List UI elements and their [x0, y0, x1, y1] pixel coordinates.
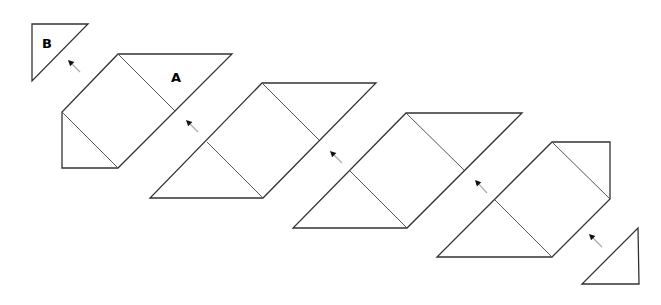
fold-line	[262, 83, 319, 140]
label-b: B	[42, 36, 52, 51]
arrow-icon	[186, 120, 198, 132]
triangle-piece-b	[32, 24, 88, 81]
arrow-icon	[330, 151, 342, 163]
arrow-group	[68, 60, 602, 247]
fold-line	[207, 142, 263, 198]
label-a: A	[171, 70, 181, 85]
fold-line	[62, 112, 118, 168]
arrow-icon	[68, 60, 80, 72]
fold-line	[350, 171, 407, 228]
arrow-icon	[589, 234, 602, 247]
shape-step-3	[293, 113, 522, 228]
shape-sequence	[62, 54, 610, 257]
triangle-b-outline	[32, 24, 88, 81]
shape-outline	[437, 142, 610, 257]
shape-step-1	[62, 54, 232, 168]
arrow-icon	[475, 180, 487, 193]
shape-outline	[150, 83, 376, 198]
fold-line	[118, 54, 175, 111]
diagram-canvas: BA	[0, 0, 661, 305]
shape-step-2	[150, 83, 376, 198]
shape-step-4	[437, 142, 610, 257]
fold-line	[495, 200, 552, 257]
shape-outline	[62, 54, 232, 168]
fold-line	[552, 142, 610, 199]
fold-line	[406, 113, 464, 170]
shape-outline	[293, 113, 522, 228]
